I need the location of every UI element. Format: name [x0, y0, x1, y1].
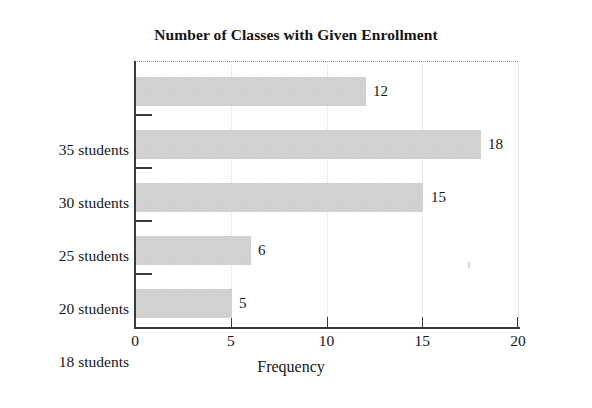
x-axis-tick-15	[422, 317, 423, 328]
y-axis-category-labels: 35 students 30 students 25 students 20 s…	[7, 62, 129, 327]
y-axis-tick-3	[135, 220, 152, 222]
x-axis-tick-10	[327, 317, 328, 328]
bar-value-20-students: 6	[258, 236, 266, 265]
bar-30-students[interactable]	[136, 130, 481, 159]
bar-value-35-students: 12	[373, 77, 388, 106]
x-axis-tick-20	[517, 317, 518, 328]
y-axis-label-20-students: 20 students	[9, 300, 129, 318]
x-axis-title: Frequency	[0, 358, 592, 376]
x-axis-label-15: 15	[415, 332, 431, 350]
x-axis-label-10: 10	[319, 332, 335, 350]
bar-25-students[interactable]	[136, 183, 423, 212]
y-axis-tick-4	[135, 273, 152, 275]
chart-title: Number of Classes with Given Enrollment	[0, 26, 592, 44]
x-axis-label-5: 5	[227, 332, 235, 350]
bar-18-students[interactable]	[136, 289, 232, 318]
plot-right-border	[518, 62, 520, 327]
bar-20-students[interactable]	[136, 236, 251, 265]
bar-chart: Number of Classes with Given Enrollment …	[0, 0, 592, 408]
y-axis-tick-1	[135, 114, 152, 116]
plot-area: 12 18 15 6 5	[135, 62, 518, 327]
y-axis-label-25-students: 25 students	[9, 247, 129, 265]
bar-35-students[interactable]	[136, 77, 366, 106]
y-axis-tick-2	[135, 167, 152, 169]
bar-value-25-students: 15	[431, 183, 446, 212]
scan-artifact-speck	[468, 262, 470, 268]
x-axis-label-20: 20	[510, 332, 526, 350]
x-axis-label-0: 0	[131, 332, 139, 350]
x-axis-tick-5	[231, 317, 232, 328]
y-axis-label-35-students: 35 students	[9, 141, 129, 159]
x-axis-tick-labels: 0 5 10 15 20	[135, 332, 518, 354]
bar-value-30-students: 18	[488, 130, 503, 159]
y-axis-label-30-students: 30 students	[9, 194, 129, 212]
bar-value-18-students: 5	[239, 289, 247, 318]
